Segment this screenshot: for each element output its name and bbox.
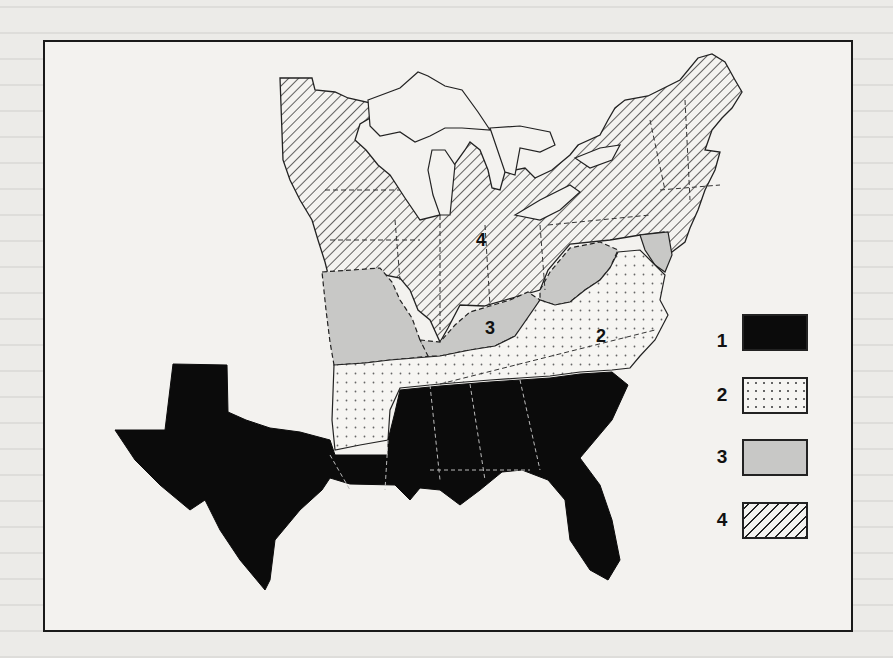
legend-label-1: 1 [712,330,732,352]
legend-swatch-dotted [742,377,808,414]
legend-swatch-hatched [742,502,808,539]
region-label-2: 2 [596,326,606,347]
legend-swatch-gray [742,439,808,476]
legend-swatch-solid-black [742,314,808,351]
legend-label-4: 4 [712,509,732,531]
legend-label-3: 3 [712,446,732,468]
region-label-3: 3 [485,318,495,339]
region-label-4: 4 [476,230,486,251]
legend-label-2: 2 [712,384,732,406]
